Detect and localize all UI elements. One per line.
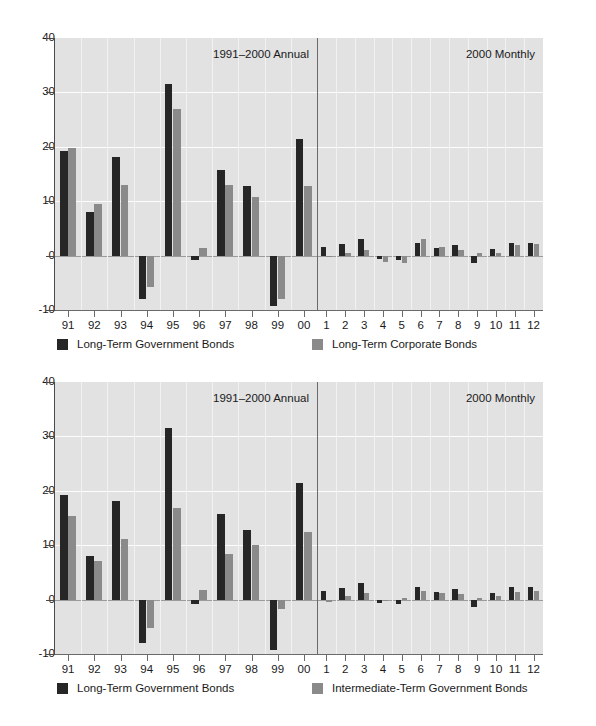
x-axis-tick [439, 654, 440, 661]
vertical-gridline [107, 382, 108, 654]
annual-panel-title: 1991–2000 Annual [213, 48, 309, 60]
y-axis-tick [46, 436, 55, 437]
bar-series-2 [304, 186, 312, 256]
legend-item-label: Long-Term Government Bonds [77, 682, 234, 694]
x-axis-tick [173, 310, 174, 317]
vertical-gridline [505, 382, 506, 654]
x-axis-tick [421, 654, 422, 661]
panel-divider [317, 38, 318, 310]
bar-series-2 [515, 245, 520, 255]
y-axis-tick [46, 491, 55, 492]
x-axis-tick [304, 654, 305, 661]
x-axis-tick [121, 654, 122, 661]
vertical-gridline [81, 382, 82, 654]
vertical-gridline [238, 382, 239, 654]
x-axis-tick-label: 12 [519, 319, 549, 331]
x-axis-tick [68, 310, 69, 317]
gridline [55, 436, 543, 437]
y-axis-tick [46, 545, 55, 546]
gridline [55, 92, 543, 93]
bar-series-1 [471, 256, 476, 264]
bar-series-2 [252, 197, 260, 255]
y-axis-labels: 403020100-10 [0, 38, 55, 311]
y-axis-tick [46, 201, 55, 202]
bar-series-1 [377, 600, 382, 604]
vertical-gridline [374, 38, 375, 310]
bar-series-2 [326, 600, 331, 602]
bar-series-2 [121, 539, 129, 600]
bar-series-1 [471, 600, 476, 608]
bar-series-1 [490, 593, 495, 600]
vertical-gridline [355, 382, 356, 654]
vertical-gridline [212, 38, 213, 310]
vertical-gridline [505, 38, 506, 310]
bar-series-1 [321, 247, 326, 256]
bar-series-2 [173, 508, 181, 599]
x-axis-tick [534, 310, 535, 317]
vertical-gridline [449, 382, 450, 654]
x-axis-tick [326, 310, 327, 317]
x-axis-tick [121, 310, 122, 317]
bar-series-1 [217, 514, 225, 599]
x-axis-tick [477, 310, 478, 317]
bar-series-1 [528, 243, 533, 256]
vertical-gridline [160, 382, 161, 654]
x-axis-tick [515, 654, 516, 661]
x-axis-tick [68, 654, 69, 661]
series-2-swatch [312, 339, 323, 350]
x-axis-tick [225, 654, 226, 661]
bar-series-2 [68, 516, 76, 600]
bar-series-2 [439, 593, 444, 600]
y-axis-tick-label: 30 [11, 429, 55, 441]
vertical-gridline [238, 38, 239, 310]
bar-series-1 [296, 139, 304, 255]
y-axis-line [54, 382, 55, 655]
x-axis-tick [147, 310, 148, 317]
bar-series-1 [112, 157, 120, 256]
bar-series-1 [165, 428, 173, 600]
bar-series-2 [458, 250, 463, 256]
bar-series-2 [496, 596, 501, 600]
bar-series-2 [364, 593, 369, 600]
bar-series-1 [243, 186, 251, 256]
bar-series-1 [358, 239, 363, 256]
bar-series-1 [452, 589, 457, 600]
x-axis-tick [304, 310, 305, 317]
y-axis-tick-label: 10 [11, 538, 55, 550]
legend-item-series-1: Long-Term Government Bonds [57, 682, 234, 694]
monthly-panel-title: 2000 Monthly [466, 48, 535, 60]
vertical-gridline [336, 38, 337, 310]
vertical-gridline [449, 38, 450, 310]
bar-series-1 [396, 600, 401, 605]
bar-series-2 [252, 545, 260, 600]
vertical-gridline [212, 382, 213, 654]
vertical-gridline [392, 382, 393, 654]
bar-series-1 [139, 256, 147, 300]
vertical-gridline [160, 38, 161, 310]
x-axis-tick [278, 654, 279, 661]
bar-series-2 [147, 256, 155, 288]
plot-area-1 [55, 38, 543, 310]
bar-series-2 [225, 554, 233, 600]
x-axis-tick [252, 654, 253, 661]
bar-series-2 [383, 256, 388, 262]
x-axis-tick [94, 310, 95, 317]
bar-series-2 [94, 561, 102, 600]
x-axis-tick [383, 310, 384, 317]
y-axis-tick-label: 0 [11, 249, 55, 261]
bar-series-1 [139, 600, 147, 644]
x-axis-tick [345, 654, 346, 661]
x-axis-tick [458, 654, 459, 661]
y-axis-tick-label: -10 [11, 303, 55, 315]
x-axis-tick [173, 654, 174, 661]
bar-series-1 [60, 495, 68, 600]
x-axis-tick-label: 12 [519, 663, 549, 675]
vertical-gridline [524, 38, 525, 310]
x-axis-tick [402, 310, 403, 317]
vertical-gridline [430, 382, 431, 654]
bar-series-2 [173, 109, 181, 256]
annual-panel-title: 1991–2000 Annual [213, 392, 309, 404]
vertical-gridline [468, 38, 469, 310]
bar-series-2 [383, 600, 388, 601]
x-axis-tick [364, 654, 365, 661]
